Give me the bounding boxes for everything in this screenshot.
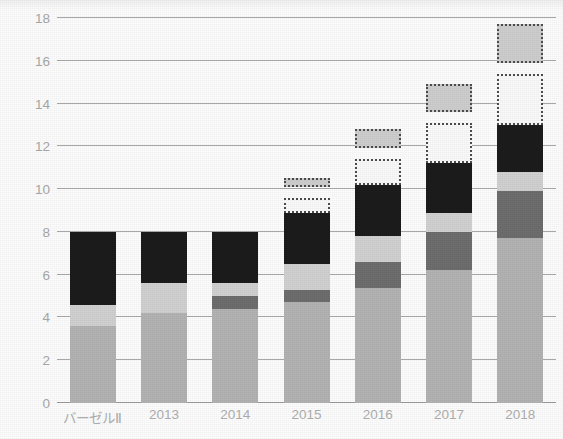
bar-segment-light-gray-band <box>212 283 258 296</box>
y-axis-tick-labels: 024681012141618 <box>0 18 50 403</box>
y-tick-label-2: 2 <box>42 353 50 368</box>
y-tick-label-18: 18 <box>35 11 50 26</box>
bar-segment-white-dotted-box <box>355 159 401 185</box>
y-tick-label-6: 6 <box>42 267 50 282</box>
stacked-bar-chart: 024681012141618 バーゼルⅡ2013201420152016201… <box>0 0 563 439</box>
bar-segment-black-top <box>284 213 330 264</box>
bar-segment-white-dotted-box <box>497 74 543 125</box>
bar-segment-medium-gray-base <box>70 326 116 403</box>
bar-segment-gray-dotted-box <box>497 24 543 63</box>
bar-segment-dark-gray-buffer <box>284 290 330 303</box>
x-axis-tick-labels: バーゼルⅡ201320142015201620172018 <box>57 407 556 433</box>
bar-group <box>141 18 187 403</box>
bar-segment-black-top <box>141 232 187 283</box>
bar-segment-light-gray-band <box>426 213 472 232</box>
x-tick-label-0: バーゼルⅡ <box>63 407 122 427</box>
y-tick-label-0: 0 <box>42 396 50 411</box>
bar-segment-medium-gray-base <box>284 302 330 403</box>
bar-segment-dark-gray-buffer <box>212 296 258 309</box>
bar-group <box>70 18 116 403</box>
bar-segment-black-top <box>497 125 543 172</box>
bar-series-container <box>57 18 556 403</box>
bar-segment-black-top <box>426 163 472 212</box>
bar-segment-black-top <box>355 185 401 236</box>
bar-group <box>426 18 472 403</box>
bar-segment-black-top <box>212 232 258 283</box>
bar-segment-light-gray-band <box>497 172 543 191</box>
x-tick-label-5: 2017 <box>434 407 464 422</box>
x-tick-label-3: 2015 <box>291 407 321 422</box>
bar-segment-medium-gray-base <box>212 309 258 403</box>
bar-segment-white-dotted-box <box>426 123 472 164</box>
page-top-shade <box>0 0 563 10</box>
bar-segment-gray-dotted-box <box>355 129 401 148</box>
bar-segment-gray-dotted-box <box>426 84 472 112</box>
x-tick-label-2: 2014 <box>220 407 250 422</box>
y-tick-label-10: 10 <box>35 182 50 197</box>
bar-segment-light-gray-band <box>284 264 330 290</box>
x-tick-label-4: 2016 <box>363 407 393 422</box>
y-tick-label-16: 16 <box>35 53 50 68</box>
bar-segment-light-gray-band <box>355 236 401 262</box>
bar-group <box>497 18 543 403</box>
bar-segment-dark-gray-buffer <box>355 262 401 288</box>
x-tick-label-6: 2018 <box>505 407 535 422</box>
x-tick-label-1: 2013 <box>149 407 179 422</box>
bar-segment-dark-gray-buffer <box>497 191 543 238</box>
bar-segment-dark-gray-buffer <box>426 232 472 271</box>
bar-segment-gray-dotted-box <box>284 178 330 187</box>
bar-segment-medium-gray-base <box>355 288 401 404</box>
y-tick-label-14: 14 <box>35 96 50 111</box>
bar-segment-medium-gray-base <box>426 270 472 403</box>
bar-segment-white-dotted-box <box>284 198 330 213</box>
y-tick-label-12: 12 <box>35 139 50 154</box>
bar-segment-medium-gray-base <box>497 238 543 403</box>
y-tick-label-4: 4 <box>42 310 50 325</box>
bar-group <box>212 18 258 403</box>
bar-group <box>355 18 401 403</box>
bar-segment-medium-gray-base <box>141 313 187 403</box>
bar-segment-light-gray-band <box>70 305 116 326</box>
bar-segment-light-gray-band <box>141 283 187 313</box>
bar-segment-black-top <box>70 232 116 305</box>
bar-group <box>284 18 330 403</box>
y-tick-label-8: 8 <box>42 224 50 239</box>
